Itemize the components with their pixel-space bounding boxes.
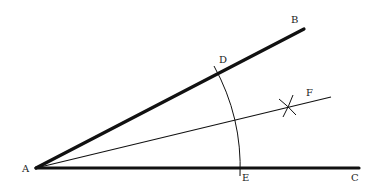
label-c: C bbox=[351, 172, 359, 183]
label-e: E bbox=[242, 172, 249, 183]
label-a: A bbox=[21, 163, 30, 174]
bisector-af bbox=[36, 97, 331, 168]
ray-ab bbox=[36, 29, 304, 168]
label-b: B bbox=[291, 14, 298, 25]
arc-de bbox=[214, 66, 240, 176]
angle-bisector-diagram: A B C D E F bbox=[0, 0, 381, 193]
label-d: D bbox=[219, 54, 227, 65]
label-f: F bbox=[306, 87, 313, 98]
